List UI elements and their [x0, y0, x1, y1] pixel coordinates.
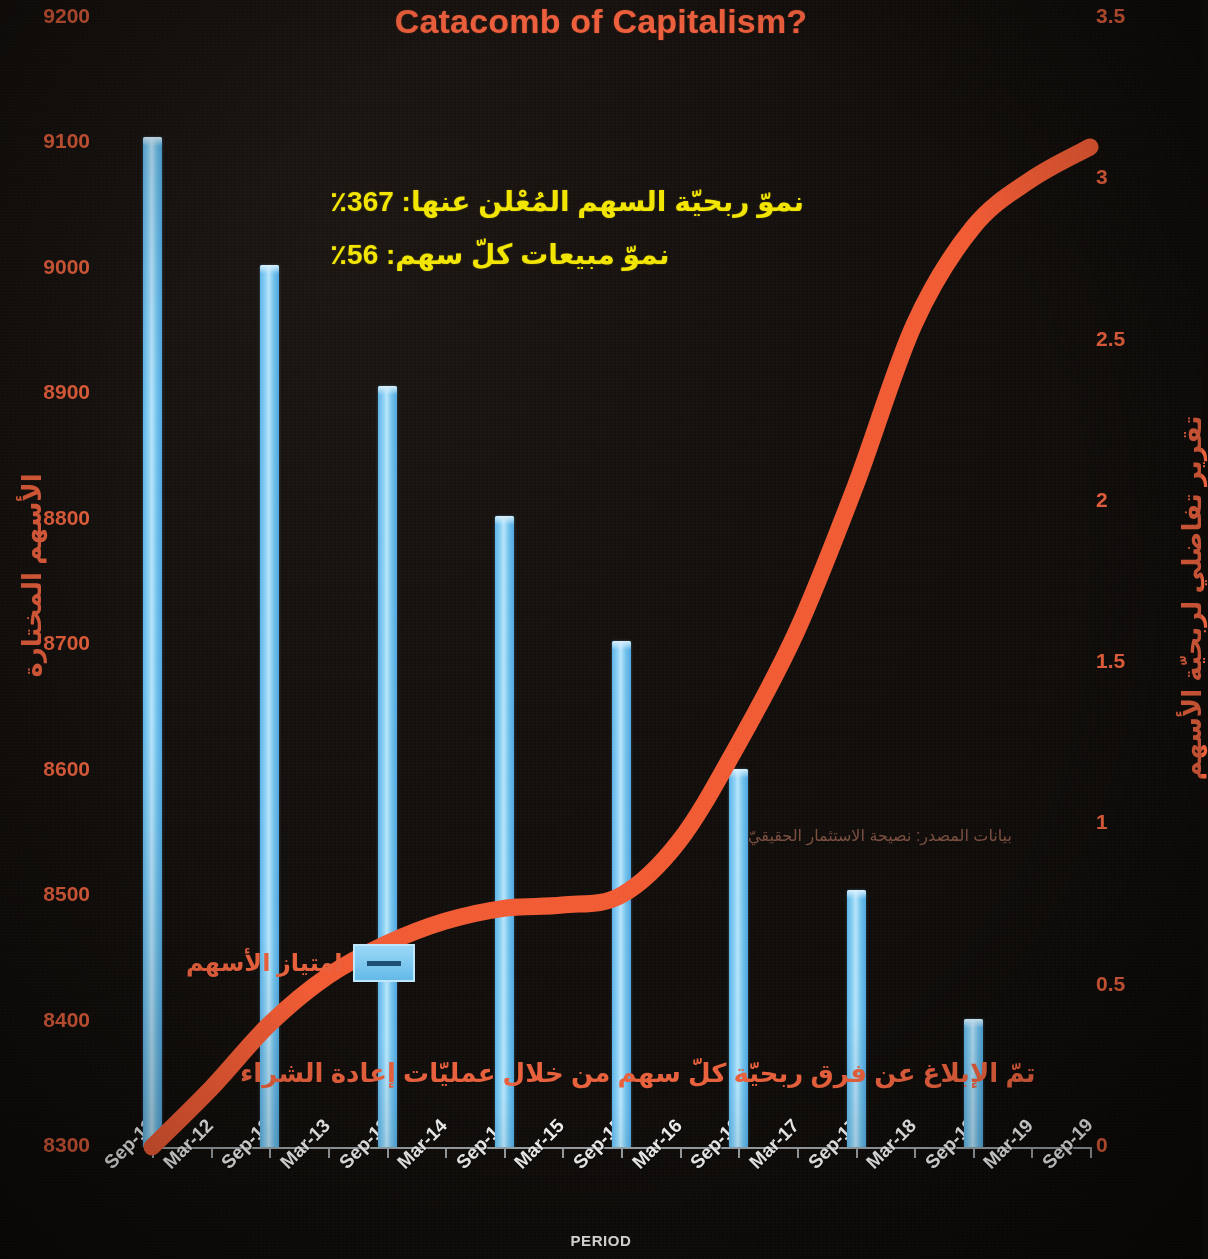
- bar-series-swatch-icon: [353, 944, 415, 982]
- y-tick-left-8600: 8600: [43, 757, 90, 781]
- x-tick-mark: [621, 1147, 623, 1158]
- y-tick-right-2-5: 2.5: [1096, 327, 1125, 351]
- y-tick-left-8300: 8300: [43, 1133, 90, 1157]
- annotation-buyback-note: تمّ الإبلاغ عن فرق ربحيّة كلّ سهم من خلا…: [240, 1058, 1036, 1089]
- x-tick-mark: [1090, 1147, 1092, 1158]
- x-tick-mark: [152, 1147, 154, 1158]
- x-tick-mark: [680, 1147, 682, 1158]
- y-tick-right-1: 1: [1096, 810, 1108, 834]
- bar-sep-14: [495, 516, 514, 1147]
- y-tick-left-8900: 8900: [43, 380, 90, 404]
- y-tick-left-9000: 9000: [43, 255, 90, 279]
- y-tick-left-8500: 8500: [43, 882, 90, 906]
- y-tick-right-0: 0: [1096, 1133, 1108, 1157]
- y-tick-left-8700: 8700: [43, 631, 90, 655]
- y-tick-left-9100: 9100: [43, 129, 90, 153]
- x-tick-mark: [269, 1147, 271, 1158]
- x-tick-mark: [504, 1147, 506, 1158]
- source-note: بيانات المصدر: نصيحة الاستثمار الحقيقيّ: [748, 826, 1012, 845]
- x-tick-mark: [211, 1147, 213, 1158]
- x-axis-label: PERIOD: [0, 1232, 1202, 1249]
- x-tick-mark: [856, 1147, 858, 1158]
- y-tick-left-9200: 9200: [43, 4, 90, 28]
- x-tick-mark: [738, 1147, 740, 1158]
- bar-sep-12: [260, 265, 279, 1147]
- x-tick-mark: [445, 1147, 447, 1158]
- y-tick-left-8800: 8800: [43, 506, 90, 530]
- y-axis-left-label: الأسهم المختارة: [17, 426, 48, 726]
- bar-sep-16: [729, 769, 748, 1147]
- legend: امتياز الأسهم: [186, 944, 415, 982]
- y-tick-right-3: 3: [1096, 165, 1108, 189]
- y-tick-right-2: 2: [1096, 488, 1108, 512]
- bar-sep-11: [143, 137, 162, 1147]
- y-tick-right-0-5: 0.5: [1096, 972, 1125, 996]
- annotation-eps-growth: نموّ ربحيّة السهم المُعْلن عنها: 367٪: [330, 185, 804, 218]
- y-tick-left-8400: 8400: [43, 1008, 90, 1032]
- bar-sep-13: [378, 386, 397, 1147]
- x-tick-mark: [562, 1147, 564, 1158]
- bar-sep-17: [847, 890, 866, 1147]
- legend-label-bar-series: امتياز الأسهم: [186, 949, 343, 977]
- x-tick-mark: [1031, 1147, 1033, 1158]
- x-tick-mark: [797, 1147, 799, 1158]
- y-tick-right-1-5: 1.5: [1096, 649, 1125, 673]
- y-tick-right-3-5: 3.5: [1096, 4, 1125, 28]
- x-tick-mark: [387, 1147, 389, 1158]
- x-tick-mark: [328, 1147, 330, 1158]
- x-tick-mark: [914, 1147, 916, 1158]
- x-tick-mark: [973, 1147, 975, 1158]
- annotation-sales-growth: نموّ مبيعات كلّ سهم: 56٪: [330, 238, 669, 271]
- y-axis-right-label: تقرير تفاضلي لربحيّة الأسهم: [1177, 416, 1208, 776]
